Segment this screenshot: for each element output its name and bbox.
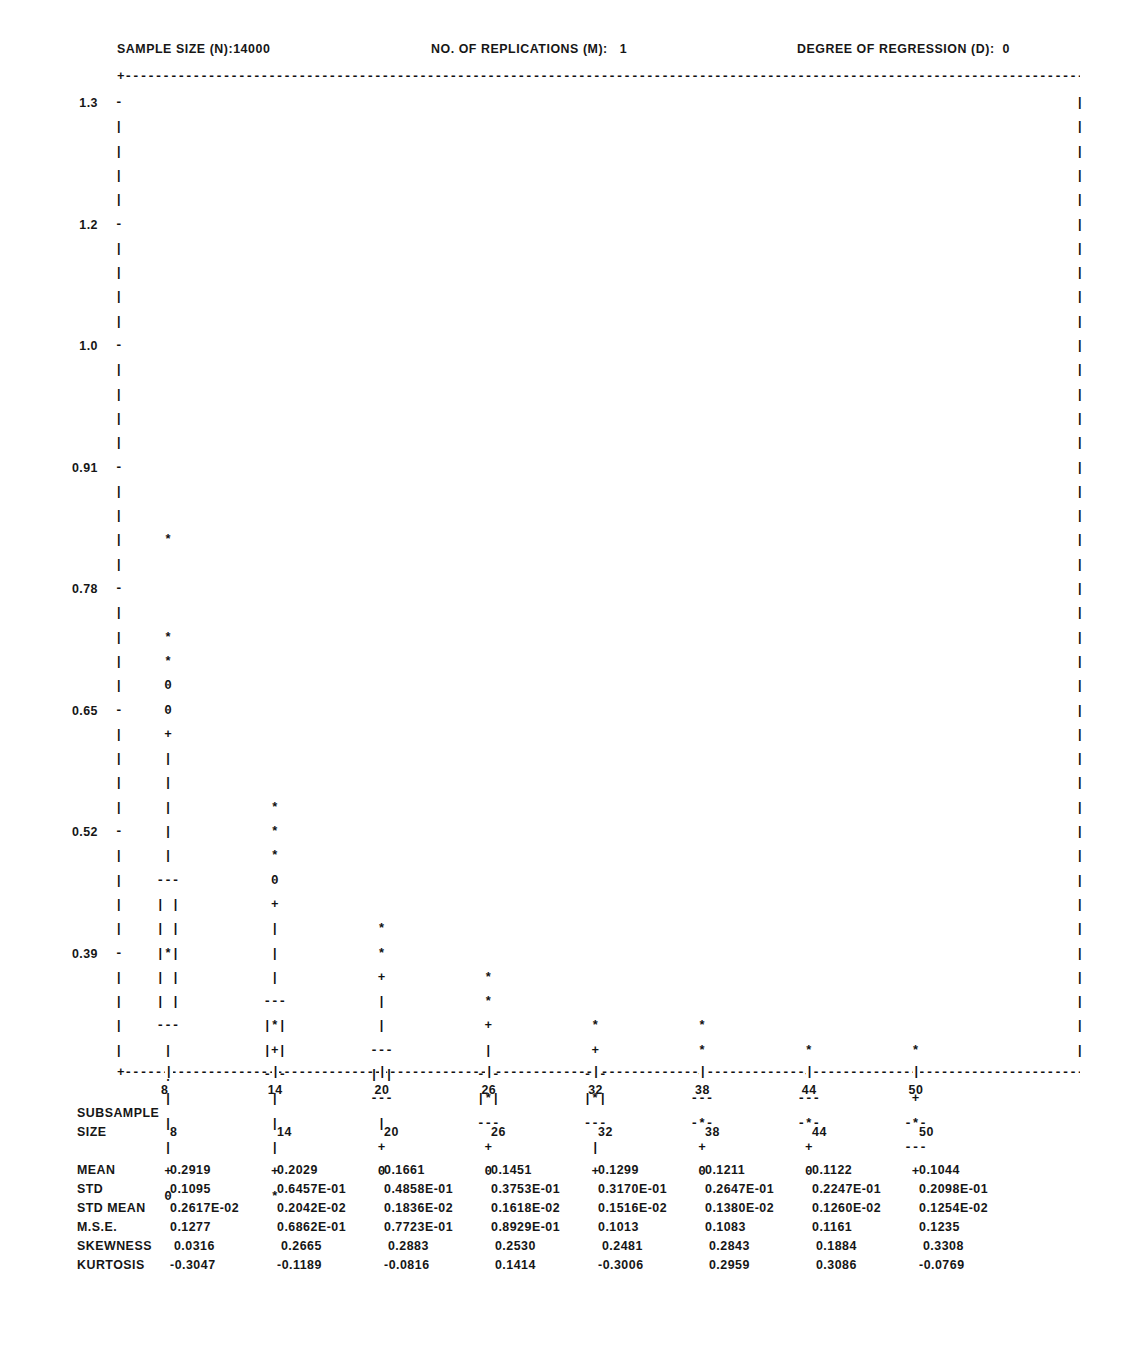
stats-value-cell: 0.6457E-01	[277, 1182, 346, 1196]
stats-value-cell: 0.1661	[384, 1163, 425, 1177]
plot-left-frame: |	[115, 437, 123, 450]
y-axis-tick-mark: -	[115, 705, 123, 718]
stats-value-cell: -0.3006	[598, 1258, 644, 1272]
plot-right-frame: |	[1076, 632, 1084, 645]
x-axis-tick-mark: |	[913, 1066, 921, 1079]
plot-symbol: |	[164, 850, 172, 863]
y-axis-tick-label: 0.39	[40, 947, 98, 961]
plot-symbol: *	[271, 802, 279, 815]
stats-value-cell: 0.1044	[919, 1163, 960, 1177]
plot-right-frame: |	[1076, 194, 1084, 207]
plot-left-frame: |	[115, 996, 123, 1009]
stats-row: M.S.E.0.12770.6862E-010.7723E-010.8929E-…	[0, 1220, 1131, 1239]
plot-right-frame: |	[1076, 656, 1084, 669]
plot-right-frame: |	[1076, 437, 1084, 450]
plot-symbol: *	[485, 996, 493, 1009]
y-axis-tick-label: 0.65	[40, 704, 98, 718]
stats-value-cell: 0.1122	[812, 1163, 852, 1177]
plot-symbol: | |	[157, 923, 180, 936]
plot-symbol: *	[164, 632, 172, 645]
plot-left-frame: |	[115, 972, 123, 985]
stats-value-cell: 0.3308	[919, 1239, 964, 1253]
plot-right-frame: |	[1076, 170, 1084, 183]
stats-value-cell: 0.1254E-02	[919, 1201, 988, 1215]
y-axis-tick-label: 1.2	[40, 218, 98, 232]
plot-right-frame: |	[1076, 753, 1084, 766]
stats-value-cell: -0.1189	[277, 1258, 322, 1272]
stats-value-cell: -0.0769	[919, 1258, 965, 1272]
plot-symbol: +	[591, 1045, 599, 1058]
stats-value-cell: 0.2919	[170, 1163, 211, 1177]
plot-left-frame: |	[115, 170, 123, 183]
x-axis-tick-mark: |	[165, 1066, 173, 1079]
stats-value-cell: 0.2247E-01	[812, 1182, 881, 1196]
plot-left-frame: |	[115, 656, 123, 669]
plot-left-frame: |	[115, 777, 123, 790]
x-axis-tick-mark: |	[592, 1066, 600, 1079]
plot-left-frame: |	[115, 802, 123, 815]
x-axis-tick-mark: |	[485, 1066, 493, 1079]
plot-symbol: | |	[157, 996, 180, 1009]
stats-value-cell: 0.0316	[170, 1239, 215, 1253]
plot-right-frame: |	[1076, 146, 1084, 159]
y-axis-tick-label: 0.91	[40, 461, 98, 475]
plot-right-frame: |	[1076, 534, 1084, 547]
plot-left-frame: |	[115, 632, 123, 645]
stats-value-cell: 0.4858E-01	[384, 1182, 453, 1196]
stats-size-header-cell: 14	[277, 1125, 292, 1139]
plot-left-frame: |	[115, 389, 123, 402]
plot-symbol: *	[698, 1020, 706, 1033]
plot-symbol: |*|	[157, 948, 180, 961]
plot-symbol: ---	[157, 1020, 180, 1033]
stats-row: MEAN0.29190.20290.16610.14510.12990.1211…	[0, 1163, 1131, 1182]
plot-left-frame: |	[115, 753, 123, 766]
stats-value-cell: 0.2647E-01	[705, 1182, 774, 1196]
plot-symbol: *	[164, 656, 172, 669]
stats-value-cell: 0.3170E-01	[598, 1182, 667, 1196]
stats-title-subsample: SUBSAMPLE	[77, 1106, 159, 1120]
plot-right-frame: |	[1076, 996, 1084, 1009]
plot-right-frame: |	[1076, 875, 1084, 888]
stats-size-header-cell: 20	[384, 1125, 399, 1139]
x-axis-tick-label: 20	[375, 1083, 390, 1097]
x-axis-tick-mark: |	[379, 1066, 387, 1079]
stats-value-cell: 0.8929E-01	[491, 1220, 560, 1234]
stats-size-header-cell: 32	[598, 1125, 613, 1139]
stats-value-cell: 0.1211	[705, 1163, 745, 1177]
plot-symbol: 0	[164, 680, 172, 693]
y-axis-tick-mark: -	[115, 583, 123, 596]
stats-value-cell: 0.1618E-02	[491, 1201, 560, 1215]
plot-left-frame: |	[115, 1045, 123, 1058]
stats-size-header-cell: 38	[705, 1125, 720, 1139]
y-axis-tick-mark: -	[115, 826, 123, 839]
plot-symbol: |	[164, 753, 172, 766]
stats-value-cell: -0.3047	[170, 1258, 216, 1272]
x-axis-tick-label: 14	[268, 1083, 283, 1097]
plot-symbol: | |	[157, 899, 180, 912]
plot-symbol: +	[485, 1020, 493, 1033]
plot-left-frame: |	[115, 680, 123, 693]
stats-value-cell: 0.1451	[491, 1163, 532, 1177]
report-header: SAMPLE SIZE (N):14000 NO. OF REPLICATION…	[0, 42, 1131, 64]
plot-right-frame: |	[1076, 705, 1084, 718]
stats-value-cell: 0.1380E-02	[705, 1201, 774, 1215]
sample-size-label: SAMPLE SIZE (N):14000	[117, 42, 270, 56]
plot-symbol: +	[378, 972, 386, 985]
x-axis-tick-label: 8	[161, 1083, 168, 1097]
plot-left-frame: |	[115, 194, 123, 207]
plot-symbol: |	[378, 996, 386, 1009]
stats-value-cell: 0.7723E-01	[384, 1220, 453, 1234]
stats-value-cell: 0.1836E-02	[384, 1201, 453, 1215]
plot-right-frame: |	[1076, 826, 1084, 839]
plot-right-frame: |	[1076, 219, 1084, 232]
plot-symbol: *	[805, 1045, 813, 1058]
y-axis-tick-label: 0.78	[40, 582, 98, 596]
plot-symbol: *	[378, 923, 386, 936]
stats-value-cell: 0.1884	[812, 1239, 857, 1253]
plot-symbol: *	[591, 1020, 599, 1033]
plot-left-frame: |	[115, 486, 123, 499]
plot-left-frame: |	[115, 923, 123, 936]
x-axis-tick-mark: |	[699, 1066, 707, 1079]
stats-row-label: KURTOSIS	[77, 1258, 145, 1272]
stats-row: STD MEAN0.2617E-020.2042E-020.1836E-020.…	[0, 1201, 1131, 1220]
